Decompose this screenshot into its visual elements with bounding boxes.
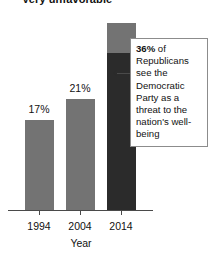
bar-segment-2004 bbox=[66, 99, 95, 210]
x-axis-label-1994: 1994 bbox=[17, 220, 61, 232]
x-axis-tick-2014 bbox=[121, 211, 122, 215]
callout-leader-line bbox=[116, 73, 131, 74]
annotation-emphasis: 36% bbox=[136, 43, 155, 54]
bar-segment-1994 bbox=[25, 120, 54, 210]
bar-value-2004: 21% bbox=[60, 82, 100, 94]
bar-value-1994: 17% bbox=[19, 103, 59, 115]
annotation-text: of Republicans see the Democratic Party … bbox=[136, 43, 191, 139]
x-axis-title: Year bbox=[51, 237, 111, 249]
bar-2004 bbox=[66, 99, 95, 210]
callout-arrow-icon bbox=[113, 70, 117, 76]
chart-container: Very unfavorable 17% 21% 43% 1994 2004 2… bbox=[0, 0, 215, 261]
x-axis-label-2004: 2004 bbox=[58, 220, 102, 232]
x-axis-tick-2004 bbox=[80, 211, 81, 215]
annotation-callout: 36% of Republicans see the Democratic Pa… bbox=[130, 38, 208, 147]
x-axis-tick-1994 bbox=[39, 211, 40, 215]
x-axis-label-2014: 2014 bbox=[99, 220, 143, 232]
bar-1994 bbox=[25, 120, 54, 210]
